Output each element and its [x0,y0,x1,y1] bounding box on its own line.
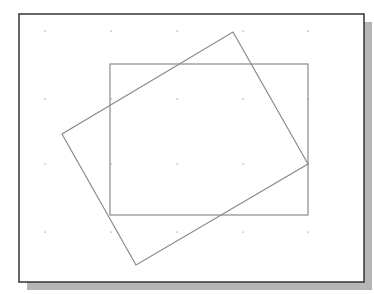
grid-dot [308,232,309,233]
drawing-frame [19,14,364,282]
grid-dot [45,164,46,165]
grid-dot [243,232,244,233]
grid-dot [177,31,178,32]
grid-dot [111,31,112,32]
diagram-canvas [0,0,374,294]
grid-dot [243,31,244,32]
grid-dot [177,232,178,233]
grid-dot [111,99,112,100]
grid-dot [243,99,244,100]
grid-dot [177,99,178,100]
grid-dot [45,31,46,32]
grid-dot [45,232,46,233]
grid-dot [111,232,112,233]
grid-dot [243,164,244,165]
grid-dot [177,164,178,165]
grid-dot [45,99,46,100]
grid-dot [308,31,309,32]
grid-dot [111,164,112,165]
